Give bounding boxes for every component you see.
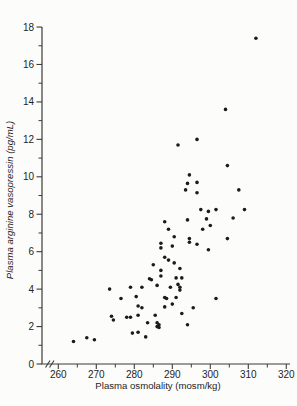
- data-point: [174, 296, 178, 300]
- data-point: [201, 227, 205, 231]
- data-point: [226, 237, 230, 241]
- x-axis-title: Plasma osmolality (mosm/kg): [95, 380, 220, 391]
- y-tick-label: 18: [23, 22, 35, 33]
- data-point: [186, 218, 190, 222]
- data-point: [254, 37, 258, 41]
- data-point: [125, 315, 129, 319]
- data-point: [159, 274, 163, 278]
- scatter-plot: 260270280290300310320024681012141618 Pla…: [0, 0, 297, 406]
- data-point: [171, 244, 175, 248]
- data-point: [159, 242, 163, 246]
- data-point: [146, 321, 150, 325]
- data-point: [131, 331, 135, 335]
- data-point: [214, 208, 218, 212]
- data-point: [186, 182, 190, 186]
- y-tick-label: 16: [23, 59, 35, 70]
- x-tick-label: 260: [50, 369, 67, 380]
- y-tick-label: 4: [28, 284, 34, 295]
- data-point: [188, 241, 192, 245]
- x-tick-label: 270: [88, 369, 105, 380]
- data-point: [243, 208, 247, 212]
- data-point: [134, 295, 138, 299]
- data-point: [237, 188, 241, 192]
- data-point: [136, 330, 140, 334]
- data-point: [163, 220, 167, 224]
- data-point: [93, 338, 97, 342]
- data-point: [188, 237, 192, 241]
- y-tick-label: 14: [23, 96, 35, 107]
- data-point: [150, 278, 154, 282]
- data-point: [85, 336, 89, 340]
- data-point: [207, 248, 211, 252]
- data-point: [155, 284, 159, 288]
- data-point: [176, 143, 180, 147]
- data-point: [214, 297, 218, 301]
- data-point: [195, 191, 199, 195]
- data-point: [180, 276, 184, 280]
- data-point: [167, 227, 171, 231]
- x-tick-label: 300: [202, 369, 219, 380]
- data-point: [178, 267, 182, 271]
- data-point: [172, 235, 176, 239]
- data-point: [152, 263, 156, 267]
- data-point: [195, 242, 199, 246]
- data-point: [224, 108, 228, 112]
- data-point: [231, 216, 235, 220]
- data-point: [157, 326, 161, 330]
- x-tick-label: 280: [126, 369, 143, 380]
- x-tick-label: 310: [240, 369, 257, 380]
- data-point: [186, 323, 190, 327]
- y-tick-label: 8: [28, 209, 34, 220]
- data-point: [205, 217, 209, 221]
- data-point: [195, 138, 199, 142]
- data-point: [171, 302, 175, 306]
- y-tick-label: 2: [28, 321, 34, 332]
- x-tick-label: 320: [278, 369, 295, 380]
- data-point: [199, 208, 203, 212]
- data-point: [226, 164, 230, 168]
- data-point: [209, 224, 213, 228]
- data-point: [119, 297, 123, 301]
- y-tick-label: 0: [28, 359, 34, 370]
- data-point: [207, 210, 211, 214]
- data-point: [191, 306, 195, 310]
- y-tick-label: 12: [23, 134, 35, 145]
- data-point: [159, 269, 163, 273]
- data-point: [165, 297, 169, 301]
- data-point: [184, 188, 188, 192]
- data-point: [163, 255, 167, 259]
- x-tick-label: 290: [164, 369, 181, 380]
- y-axis-title: Plasma arginine vasopressin (pg/mL): [4, 121, 15, 279]
- data-point: [195, 181, 199, 185]
- data-point: [136, 304, 140, 308]
- data-point: [140, 285, 144, 289]
- data-point: [169, 285, 173, 289]
- data-point: [159, 246, 163, 250]
- data-point: [129, 285, 133, 289]
- data-point: [144, 335, 148, 339]
- data-point: [136, 314, 140, 318]
- y-tick-label: 10: [23, 171, 35, 182]
- chart-layer: 260270280290300310320024681012141618: [23, 22, 295, 380]
- data-point: [112, 318, 116, 322]
- data-point: [188, 173, 192, 177]
- data-point: [163, 305, 167, 309]
- data-point: [108, 287, 112, 291]
- data-point: [178, 288, 182, 292]
- data-point: [174, 276, 178, 280]
- data-point: [172, 261, 176, 265]
- figure: 260270280290300310320024681012141618 Pla…: [0, 0, 297, 406]
- data-point: [140, 306, 144, 310]
- data-point: [110, 315, 114, 319]
- data-point: [153, 314, 157, 318]
- data-point: [180, 312, 184, 316]
- data-point: [167, 258, 171, 262]
- data-point: [129, 315, 133, 319]
- y-tick-label: 6: [28, 246, 34, 257]
- axes: [42, 27, 290, 364]
- data-point: [72, 340, 76, 344]
